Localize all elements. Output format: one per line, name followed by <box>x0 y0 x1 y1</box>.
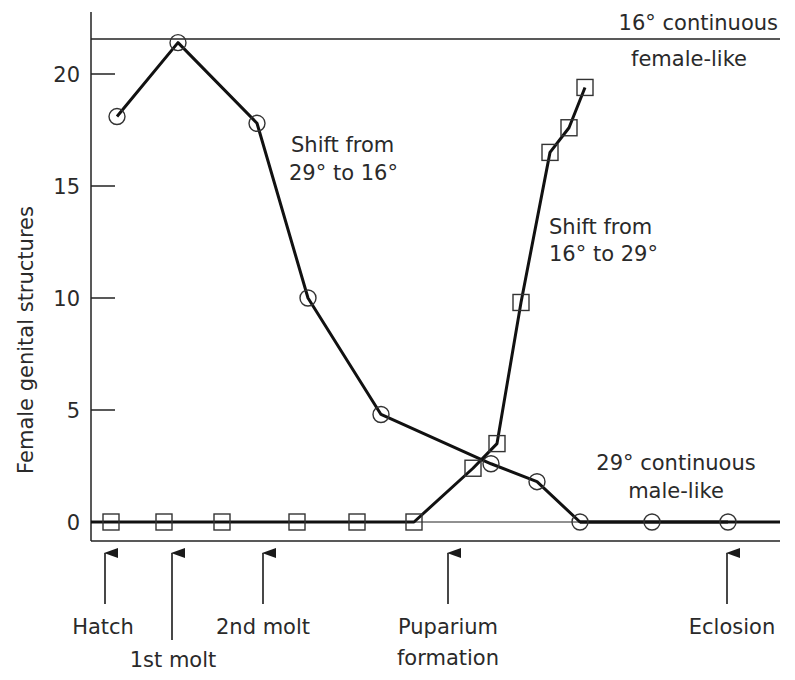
reference-label-female-like: female-like <box>631 47 747 71</box>
square-series-label-line1: Shift from <box>549 215 652 239</box>
stage-label-eclosion: Eclosion <box>689 615 775 639</box>
stage-label-hatch: Hatch <box>72 615 134 639</box>
y-tick-label: 5 <box>67 399 80 423</box>
stage-label-formation: formation <box>397 646 499 670</box>
stage-label-second-molt: 2nd molt <box>216 615 310 639</box>
y-tick-label: 20 <box>53 63 80 87</box>
y-axis-label: Female genital structures <box>14 206 38 474</box>
y-ticks: 05101520 <box>53 63 115 535</box>
reference-label-male-like: male-like <box>628 479 724 503</box>
chart: 05101520 Female genital structures 16° c… <box>0 0 795 680</box>
stage-label-first-molt: 1st molt <box>130 648 217 672</box>
y-tick-label: 10 <box>53 287 80 311</box>
y-tick-label: 0 <box>67 511 80 535</box>
reference-label-16-continuous: 16° continuous <box>619 11 778 35</box>
y-tick-label: 15 <box>53 175 80 199</box>
circle-series-label-line1: Shift from <box>291 133 394 157</box>
square-series-label-line2: 16° to 29° <box>549 242 658 266</box>
reference-label-29-continuous: 29° continuous <box>596 451 755 475</box>
circle-series-label-line2: 29° to 16° <box>289 161 398 185</box>
stage-label-puparium: Puparium <box>398 615 498 639</box>
